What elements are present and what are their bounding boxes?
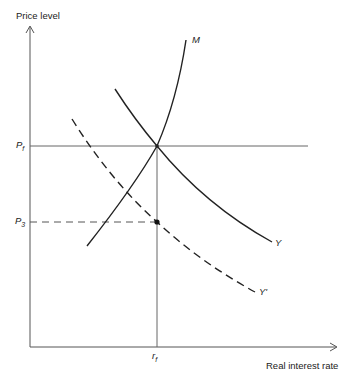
p3-point [154,219,159,224]
equilibrium-point [155,144,159,148]
curve-y [115,89,272,242]
curve-y-prime-label: Y' [259,286,267,297]
y-axis-label: Price level [16,10,60,21]
curve-m-label: M [192,34,200,45]
diagram-canvas [0,0,349,380]
curve-y-label: Y [275,237,281,248]
axes [26,26,337,351]
pf-label: Pf [16,139,24,150]
p3-label-sub: 3 [21,221,25,228]
curve-y-prime [72,119,255,292]
rf-label: rf [152,350,157,361]
p3-label: P3 [15,215,25,226]
x-axis-label: Real interest rate [266,360,338,371]
rf-label-sub: f [155,356,157,363]
curve-m [87,40,186,246]
